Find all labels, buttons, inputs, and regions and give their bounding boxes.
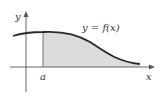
curve-label: y = f(x) bbox=[81, 22, 120, 33]
area-under-curve-diagram: y y = f(x) a x bbox=[0, 0, 160, 98]
x-axis-label: x bbox=[146, 71, 152, 82]
lower-bound-label: a bbox=[40, 71, 46, 82]
y-axis-label: y bbox=[14, 11, 21, 22]
y-axis-arrow-icon bbox=[24, 11, 29, 17]
x-axis-arrow-icon bbox=[149, 65, 155, 70]
